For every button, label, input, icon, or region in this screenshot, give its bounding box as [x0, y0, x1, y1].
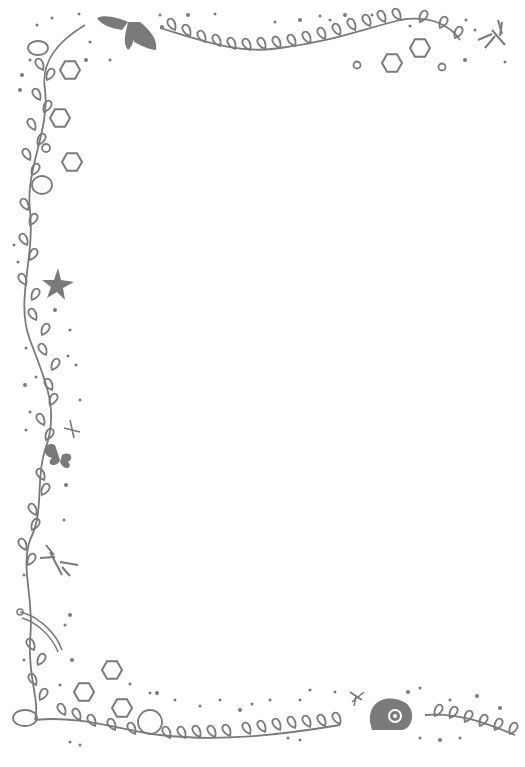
dragonfly-top-icon	[478, 20, 505, 48]
dots-icon	[13, 13, 507, 747]
decorative-border	[0, 0, 525, 767]
hexagons-icon	[42, 39, 446, 716]
dragonfly-left-icon	[40, 545, 78, 576]
leafy-vine-left-icon	[13, 25, 85, 726]
butterfly-icon	[45, 444, 72, 468]
snail-shell-icon	[370, 699, 412, 730]
small-dragonfly-bottom-icon	[350, 692, 364, 706]
vine-leaves-left-icon	[18, 59, 59, 700]
small-dragonfly-icon	[64, 420, 80, 438]
starfish-icon	[42, 268, 74, 300]
moth-icon	[97, 16, 156, 50]
caterpillar-icon	[17, 609, 62, 652]
